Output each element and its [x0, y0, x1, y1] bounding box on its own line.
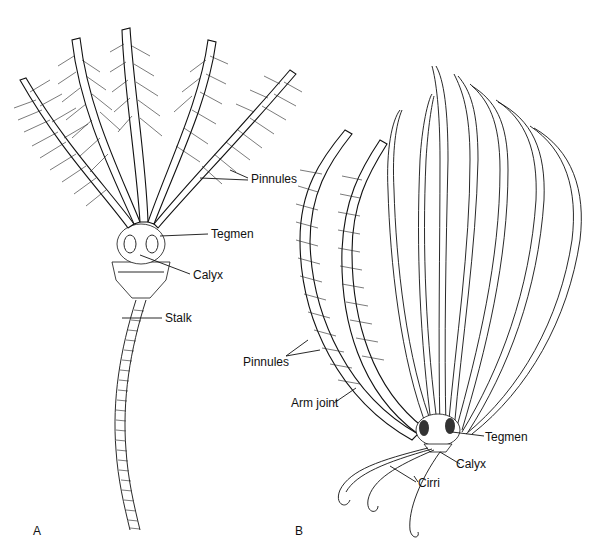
central-body [416, 414, 460, 452]
label-tegmen-a: Tegmen [211, 227, 254, 241]
label-arm-joint-b: Arm joint [291, 396, 339, 410]
tegmen [117, 224, 165, 264]
calyx-b [424, 444, 452, 452]
label-calyx-b: Calyx [456, 457, 486, 471]
pinnulate-arms [296, 130, 424, 440]
panel-label-a: A [33, 524, 41, 538]
label-pinnules-b: Pinnules [243, 355, 289, 369]
panel-a-illustration [14, 28, 302, 530]
tegmen-b-left [419, 420, 429, 436]
cirri [338, 448, 440, 537]
crinoid-figure: Pinnules Tegmen Calyx Stalk A [0, 0, 602, 549]
label-stalk-a: Stalk [165, 311, 193, 325]
label-cirri-b: Cirri [418, 476, 440, 490]
panel-label-b: B [295, 524, 303, 538]
label-calyx-a: Calyx [193, 268, 223, 282]
stalk [115, 300, 146, 530]
panel-b-illustration [296, 66, 581, 537]
label-tegmen-b: Tegmen [485, 430, 528, 444]
calyx [112, 262, 170, 298]
plain-arms [388, 66, 582, 434]
tegmen-b-right [445, 418, 455, 434]
label-pinnules-a: Pinnules [251, 172, 297, 186]
arms [14, 28, 302, 228]
